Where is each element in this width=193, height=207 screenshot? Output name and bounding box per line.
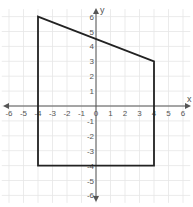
svg-text:1: 1 — [108, 109, 113, 118]
svg-text:4: 4 — [90, 42, 95, 51]
svg-text:6: 6 — [90, 13, 95, 22]
axes — [3, 8, 191, 202]
svg-text:-1: -1 — [87, 117, 95, 126]
svg-text:-3: -3 — [87, 147, 95, 156]
svg-text:3: 3 — [137, 109, 142, 118]
svg-text:-6: -6 — [87, 191, 95, 200]
svg-text:-2: -2 — [63, 109, 71, 118]
svg-text:-2: -2 — [87, 132, 95, 141]
svg-text:0: 0 — [94, 109, 99, 118]
svg-text:-6: -6 — [5, 109, 13, 118]
svg-text:3: 3 — [90, 57, 95, 66]
x-axis-label: x — [187, 94, 192, 104]
svg-text:-3: -3 — [49, 109, 57, 118]
svg-text:-5: -5 — [87, 177, 95, 186]
svg-text:2: 2 — [123, 109, 128, 118]
svg-text:-1: -1 — [78, 109, 86, 118]
svg-text:6: 6 — [181, 109, 186, 118]
svg-text:2: 2 — [90, 72, 95, 81]
svg-text:5: 5 — [166, 109, 171, 118]
svg-text:1: 1 — [90, 87, 95, 96]
svg-text:-5: -5 — [20, 109, 28, 118]
svg-text:5: 5 — [90, 28, 95, 37]
y-axis-label: y — [100, 5, 105, 15]
coordinate-plane: -6-5-4-3-2-10123456-6-5-4-3-2-1123456 x … — [0, 0, 193, 207]
